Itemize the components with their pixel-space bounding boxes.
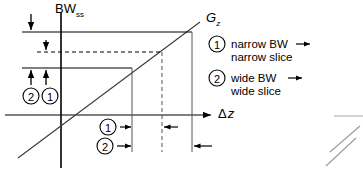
legend-marker-2-label: 2 [214, 73, 220, 85]
bandwidth-marker-2-label: 2 [28, 91, 34, 103]
legend-item-1-line1: narrow BW [231, 38, 288, 51]
slice-selection-diagram: 2 1 1 2 1 2 BWss Gz Δz narrow BW narrow … [0, 0, 363, 180]
legend-item-2-line2: wide slice [231, 85, 281, 98]
diagram-canvas: 2 1 1 2 1 2 [0, 0, 363, 180]
gradient-line-label-main: G [206, 10, 216, 25]
gradient-line-label: Gz [206, 11, 220, 28]
y-axis-label-subscript: ss [76, 10, 84, 19]
slice-marker-1-label: 1 [105, 122, 111, 134]
x-axis-label: Δz [218, 107, 234, 120]
y-axis-label: BWss [55, 2, 84, 19]
bandwidth-marker-1-label: 1 [47, 91, 53, 103]
slice-marker-2-label: 2 [102, 141, 108, 153]
x-axis-label-var: z [228, 106, 235, 121]
legend-item-2-line1: wide BW [231, 72, 276, 85]
legend-item-1-line2: narrow slice [231, 51, 292, 64]
x-axis-label-delta: Δ [218, 106, 227, 121]
legend-marker-1-label: 1 [214, 39, 220, 51]
y-axis-label-main: BW [55, 1, 76, 16]
gradient-line-label-subscript: z [216, 19, 220, 28]
